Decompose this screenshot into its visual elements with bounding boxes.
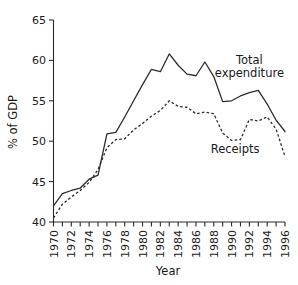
x-axis-title: Year [155, 264, 181, 278]
series-annotations: TotalexpenditureReceipts [211, 53, 284, 156]
gdp-line-chart: 404550556065 197019721974197619781980198… [0, 0, 298, 285]
x-tick-label: 1976 [101, 230, 114, 258]
x-tick-label: 1982 [154, 230, 167, 258]
series-line-receipts [54, 101, 286, 218]
y-tick-label: 55 [32, 95, 46, 108]
x-tick-label: 1972 [65, 230, 78, 258]
y-tick-label: 50 [32, 135, 46, 148]
y-tick-label: 45 [32, 176, 46, 189]
x-tick-label: 1986 [190, 230, 203, 258]
x-tick-label: 1984 [172, 230, 185, 258]
x-tick-label: 1992 [243, 230, 256, 258]
y-tick-label: 40 [32, 216, 46, 229]
x-tick-label: 1978 [119, 230, 132, 258]
x-tick-label: 1970 [48, 230, 61, 258]
series-annotation-total: Total [235, 53, 263, 67]
series-annotation-expenditure: expenditure [215, 66, 284, 80]
x-tick-label: 1974 [83, 230, 96, 258]
x-tick-label: 1988 [208, 230, 221, 258]
x-tick-label: 1994 [261, 230, 274, 258]
y-axis-title: % of GDP [6, 95, 20, 149]
series-annotation-receipts: Receipts [211, 142, 260, 156]
x-tick-label: 1996 [279, 230, 292, 258]
x-tick-label: 1980 [137, 230, 150, 258]
x-axis: 1970197219741976197819801982198419861988… [48, 222, 293, 258]
y-tick-label: 60 [32, 54, 46, 67]
y-axis: 404550556065 [32, 14, 54, 229]
x-tick-label: 1990 [226, 230, 239, 258]
chart-figure: 404550556065 197019721974197619781980198… [0, 0, 298, 285]
y-tick-label: 65 [32, 14, 46, 27]
